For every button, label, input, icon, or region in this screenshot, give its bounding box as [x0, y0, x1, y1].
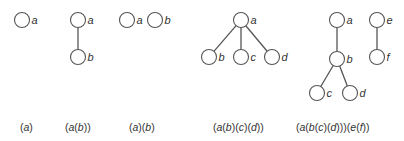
- node-label-fig5-f: f: [387, 51, 391, 63]
- caption-fig3: (a)(b): [129, 121, 155, 133]
- node-fig4-d: [265, 50, 280, 65]
- node-label-fig4-c: c: [251, 51, 257, 63]
- caption-fig5: (a(b(c)(d)))(e(f)): [296, 121, 370, 133]
- node-label-fig2-b: b: [88, 51, 94, 63]
- edge-fig5-b-c: [321, 65, 333, 86]
- node-label-fig4-d: d: [282, 51, 289, 63]
- node-label-fig2-a: a: [88, 14, 94, 26]
- node-label-fig5-c: c: [327, 87, 333, 99]
- edge-fig5-b-d: [340, 66, 348, 86]
- node-fig5-d: [343, 86, 358, 101]
- node-fig4-b: [202, 50, 217, 65]
- node-fig5-f: [370, 50, 385, 65]
- node-label-fig1-a: a: [32, 14, 38, 26]
- edge-fig4-a-d: [246, 26, 267, 52]
- node-fig5-c: [310, 86, 325, 101]
- node-label-fig5-a: a: [347, 14, 353, 26]
- caption-fig1: (a): [20, 121, 33, 133]
- node-fig3-a: [120, 13, 135, 28]
- caption-fig4: (a(b)(c)(d)): [213, 121, 264, 133]
- node-fig4-c: [234, 50, 249, 65]
- node-fig4-a: [234, 13, 249, 28]
- node-fig5-b: [330, 52, 345, 67]
- node-fig1-a: [15, 13, 30, 28]
- node-fig2-a: [71, 13, 86, 28]
- node-label-fig5-b: b: [347, 53, 353, 65]
- forest-diagram: aabababcdabcdef: [0, 0, 404, 141]
- node-fig2-b: [71, 50, 86, 65]
- caption-fig2: (a(b)): [65, 121, 91, 133]
- node-fig3-b: [148, 13, 163, 28]
- node-label-fig5-d: d: [360, 87, 367, 99]
- node-fig5-a: [330, 13, 345, 28]
- node-label-fig3-a: a: [137, 14, 143, 26]
- node-label-fig4-a: a: [251, 14, 257, 26]
- node-label-fig3-b: b: [165, 14, 171, 26]
- node-label-fig4-b: b: [219, 51, 225, 63]
- edge-fig4-a-b: [214, 26, 236, 52]
- nodes-layer: aabababcdabcdef: [15, 13, 393, 101]
- node-label-fig5-e: e: [387, 14, 393, 26]
- node-fig5-e: [370, 13, 385, 28]
